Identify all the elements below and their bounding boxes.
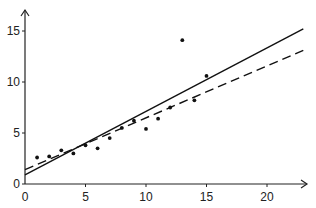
y-tick-label: 5 (13, 126, 20, 140)
data-points (35, 38, 208, 159)
axes (21, 10, 307, 188)
data-point (144, 127, 148, 131)
data-point (156, 117, 160, 121)
data-point (47, 155, 51, 159)
solid-fit-line (25, 29, 303, 175)
data-point (168, 106, 172, 110)
data-point (72, 152, 76, 156)
data-point (84, 143, 88, 147)
x-tick-label: 20 (260, 190, 274, 204)
data-point (193, 98, 197, 102)
x-tick-label: 0 (22, 190, 29, 204)
data-point (35, 156, 39, 160)
x-tick-label: 15 (200, 190, 214, 204)
data-point (96, 146, 100, 150)
data-point (205, 74, 209, 78)
data-point (108, 136, 112, 140)
x-tick-label: 10 (139, 190, 153, 204)
y-tick-label: 15 (7, 24, 21, 38)
data-point (180, 38, 184, 42)
fit-lines (25, 29, 303, 175)
scatter-chart: 05101520051015 (0, 0, 316, 208)
dashed-fit-line (25, 50, 303, 169)
data-point (132, 119, 136, 123)
y-tick-label: 10 (7, 75, 21, 89)
x-tick-label: 5 (82, 190, 89, 204)
data-point (120, 126, 124, 130)
y-tick-label: 0 (13, 177, 20, 191)
data-point (59, 148, 63, 152)
